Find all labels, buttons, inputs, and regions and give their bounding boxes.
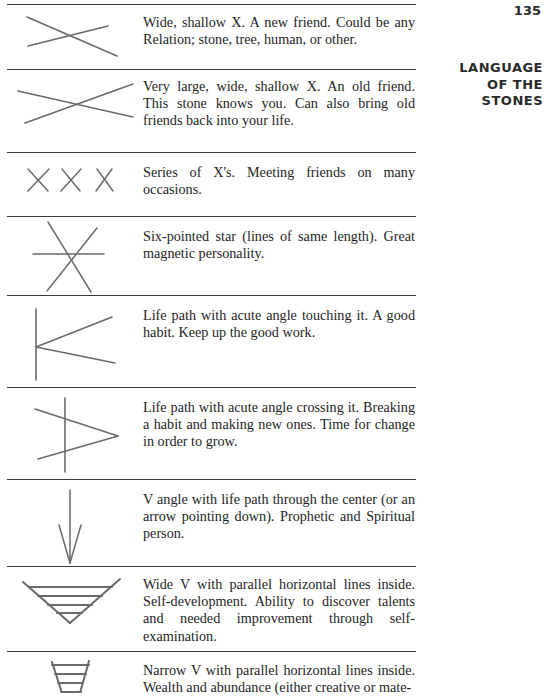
entry-description: Six-pointed star (lines of same length).… <box>143 228 415 262</box>
entry-description: V angle with life path through the cente… <box>143 491 415 543</box>
entry-description: Series of X's. Meeting friends on many o… <box>143 164 415 198</box>
life-path-acute-angle-touching-icon <box>0 296 140 388</box>
entry-description: Life path with acute angle crossing it. … <box>143 399 415 451</box>
six-pointed-star-icon <box>0 217 140 297</box>
entry-description: Wide V with parallel horizontal lines in… <box>143 576 415 645</box>
series-of-x-icon <box>0 153 140 216</box>
entry-description: Very large, wide, shallow X. An old frie… <box>143 78 415 130</box>
entry-description: Wide, shallow X. A new friend. Could be … <box>143 14 415 48</box>
running-head: LANGUAGE OF THE STONES <box>459 60 543 110</box>
v-angle-life-path-arrow-icon <box>0 480 140 567</box>
wide-shallow-x-icon <box>0 0 140 70</box>
running-head-line: LANGUAGE <box>459 60 543 77</box>
running-head-line: STONES <box>459 93 543 110</box>
wide-v-horizontal-lines-icon <box>0 567 140 652</box>
very-large-shallow-x-icon <box>0 70 140 155</box>
life-path-acute-angle-crossing-icon <box>0 388 140 480</box>
running-head-line: OF THE <box>459 77 543 94</box>
narrow-v-horizontal-lines-icon <box>0 652 140 693</box>
entry-description: Life path with acute angle touching it. … <box>143 307 415 341</box>
page-number: 135 <box>514 3 541 18</box>
entry-description: Narrow V with parallel horizontal lines … <box>143 662 415 696</box>
